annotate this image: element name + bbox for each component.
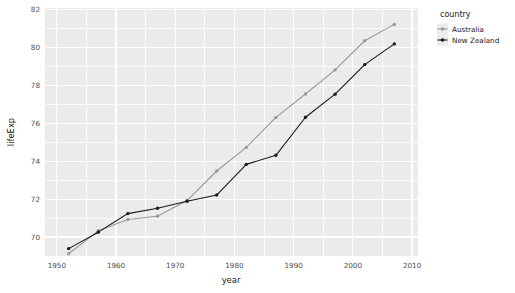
data-point [304, 92, 307, 95]
x-tick-label: 1960 [107, 261, 126, 270]
data-point [245, 146, 248, 149]
y-tick-label: 80 [31, 43, 41, 52]
x-tick-label: 2000 [344, 261, 363, 270]
x-tick-label: 1990 [285, 261, 304, 270]
data-point [156, 215, 159, 218]
data-point [67, 247, 70, 250]
y-axis-title: lifeExp [6, 118, 16, 146]
legend-item-australia[interactable]: Australia [437, 24, 484, 35]
chart-container: 70727476788082 1950196019701980199020002… [0, 0, 515, 293]
legend-key-marker [441, 27, 445, 31]
y-tick-label: 76 [31, 119, 41, 128]
data-point [274, 116, 277, 119]
legend-item-new-zealand[interactable]: New Zealand [437, 35, 499, 46]
y-tick-label: 70 [31, 233, 41, 242]
x-tick-label: 1950 [48, 261, 67, 270]
x-axis-title: year [222, 275, 241, 285]
x-tick-label: 1980 [225, 261, 244, 270]
data-point [215, 169, 218, 172]
data-point [126, 218, 129, 221]
x-tick-label: 2010 [403, 261, 422, 270]
data-point [245, 163, 248, 166]
legend-item-label: New Zealand [452, 36, 499, 45]
data-point [126, 212, 129, 215]
data-point [333, 92, 336, 95]
data-point [393, 42, 396, 45]
life-expectancy-line-chart: 70727476788082 1950196019701980199020002… [0, 0, 515, 293]
y-tick-label: 72 [31, 195, 40, 204]
data-point [304, 116, 307, 119]
data-point [215, 193, 218, 196]
data-point [333, 68, 336, 71]
data-point [274, 154, 277, 157]
data-point [156, 207, 159, 210]
y-tick-label: 78 [31, 81, 41, 90]
data-point [363, 39, 366, 42]
plot-panel [45, 8, 418, 256]
x-tick-label: 1970 [166, 261, 185, 270]
data-point [97, 230, 100, 233]
data-point [363, 63, 366, 66]
legend-item-label: Australia [452, 25, 484, 34]
data-point [185, 200, 188, 203]
legend-key-marker [441, 38, 445, 42]
data-point [67, 252, 70, 255]
y-tick-label: 74 [31, 157, 41, 166]
y-tick-label: 82 [31, 5, 40, 14]
data-point [393, 23, 396, 26]
legend-title: country [440, 10, 471, 19]
